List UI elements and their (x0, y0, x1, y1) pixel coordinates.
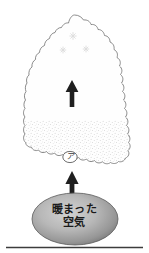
warm-air-inflow-arrow (65, 171, 78, 196)
snowflake-icon (70, 33, 76, 40)
snowflake-icon (83, 46, 89, 52)
annotation-marker-a-label: ア (63, 151, 77, 163)
figure-root: ア 暖まった 空気 (0, 0, 149, 253)
warm-air-label-line1: 暖まった (52, 203, 97, 216)
warm-air-label-line2: 空気 (0, 216, 149, 229)
snowflake-icon (60, 47, 66, 53)
warm-air-label: 暖まった 空気 (0, 203, 149, 229)
